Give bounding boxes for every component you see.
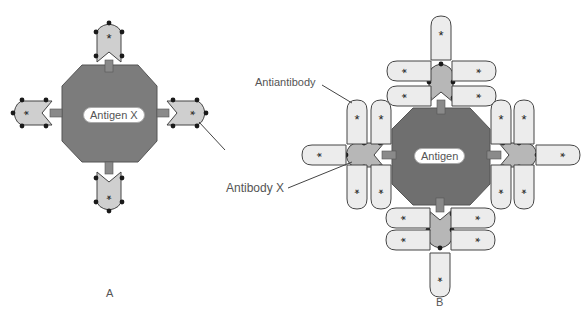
antibody-x-label: Antibody X — [226, 181, 284, 195]
antiantibody-right-ur — [514, 100, 534, 144]
antiantibody-label: Antiantibody — [255, 76, 316, 88]
antiantibody-left-ur — [371, 100, 391, 144]
antigen-x-label: Antigen X — [83, 107, 145, 123]
antiantibody-right-ul — [491, 100, 511, 144]
antibody-x-pointer-b — [288, 162, 352, 188]
antibody-left-a — [11, 98, 62, 129]
panel-a-label: A — [106, 287, 113, 299]
antiantibody-top-ll — [387, 86, 431, 106]
antiantibody-left-ul — [347, 100, 367, 144]
antiantibody-top-end — [431, 16, 451, 60]
antiantibody-left-lr — [371, 165, 391, 209]
antiantibody-left-ll — [347, 165, 367, 209]
antiantibody-bottom-end — [430, 253, 450, 297]
antibody-bottom-a — [94, 162, 125, 213]
antiantibody-bottom-ul — [386, 208, 430, 228]
antiantibody-bottom-ll — [386, 230, 430, 250]
antiantibody-pointer — [322, 85, 352, 103]
antiantibody-right-ll — [491, 165, 511, 209]
antiantibody-right-end — [536, 145, 580, 165]
diagram-canvas: * * — [0, 0, 586, 317]
antiantibody-top-ul — [387, 61, 431, 81]
panel-b-label: B — [436, 296, 443, 308]
antiantibody-left-end — [302, 145, 346, 165]
antibody-x-pointer-a — [199, 122, 225, 150]
antiantibody-bottom-ur — [451, 208, 495, 228]
antigen-label: Antigen — [414, 148, 465, 164]
antibody-top-a — [94, 21, 125, 72]
antiantibody-top-ur — [452, 61, 496, 81]
antiantibody-right-lr — [514, 165, 534, 209]
antiantibody-bottom-lr — [451, 230, 495, 250]
antiantibody-top-lr — [452, 86, 496, 106]
